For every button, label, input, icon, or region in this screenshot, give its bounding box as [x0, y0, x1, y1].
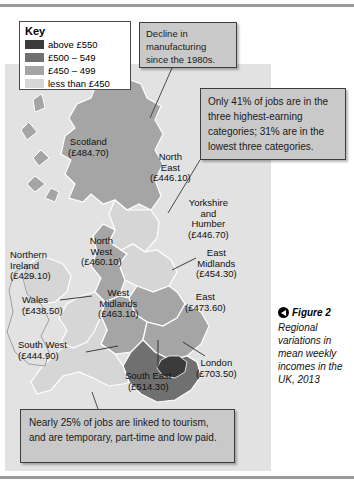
legend-swatch-below-450: [25, 79, 44, 88]
callout-manufacturing: Decline in manufacturing since the 1980s…: [139, 22, 237, 68]
legend-swatch-500-549: [25, 53, 44, 62]
map-label-south-east: South East(£514.30): [125, 371, 171, 392]
bottom-rule: [0, 476, 354, 479]
legend-label-above-550: above £550: [48, 39, 98, 50]
legend-item-below-450: less than £450: [25, 77, 130, 89]
region-yorkshire-humber: [119, 244, 177, 292]
map-label-east-midlands: EastMidlands(£454.30): [196, 248, 237, 280]
map-label-south-west: South West(£444.90): [18, 340, 67, 361]
map-legend: Key above £550 £500 – 549 £450 – 499 les…: [19, 21, 131, 90]
legend-swatch-450-499: [25, 66, 44, 75]
figure-caption-text: Regional variations in mean weekly incom…: [278, 321, 350, 386]
map-label-north-east: NorthEast(£446.10): [150, 152, 191, 184]
map-label-east: East(£473.60): [185, 292, 226, 313]
figure-caption-heading: Figure 2: [278, 306, 350, 319]
legend-label-below-450: less than £450: [48, 78, 110, 89]
callout-manufacturing-text: Decline in manufacturing since the 1980s…: [146, 27, 230, 66]
figure-caption: Figure 2 Regional variations in mean wee…: [278, 306, 350, 386]
map-label-scotland: Scotland(£484.70): [68, 137, 109, 158]
legend-label-500-549: £500 – 549: [48, 52, 96, 63]
callout-tourism-text: Nearly 25% of jobs are linked to tourism…: [29, 415, 226, 445]
figure-number: Figure 2: [292, 306, 331, 319]
legend-swatch-above-550: [25, 40, 44, 49]
figure-page: Key above £550 £500 – 549 £450 – 499 les…: [0, 0, 354, 484]
legend-title: Key: [25, 25, 130, 37]
region-scotland-isles: [21, 94, 59, 202]
legend-item-above-550: above £550: [25, 38, 130, 50]
callout-tourism: Nearly 25% of jobs are linked to tourism…: [20, 409, 235, 463]
legend-label-450-499: £450 – 499: [48, 65, 96, 76]
map-label-west-midlands: WestMidlands(£463.10): [98, 288, 139, 320]
legend-item-450-499: £450 – 499: [25, 64, 130, 76]
callout-job-categories: Only 41% of jobs are in the three highes…: [200, 88, 346, 160]
legend-item-500-549: £500 – 549: [25, 51, 130, 63]
map-label-northern-ireland: NorthernIreland(£429.10): [10, 250, 51, 282]
map-label-wales: Wales(£438.50): [22, 295, 63, 316]
map-label-yorkshire-humber: YorkshireandHumber(£446.70): [188, 198, 229, 240]
map-label-london: London(£703.50): [196, 358, 237, 379]
map-label-north-west: NorthWest(£460.10): [81, 236, 122, 268]
top-rule: [0, 4, 354, 7]
callout-job-categories-text: Only 41% of jobs are in the three highes…: [208, 94, 338, 154]
back-arrow-icon: [278, 307, 289, 318]
